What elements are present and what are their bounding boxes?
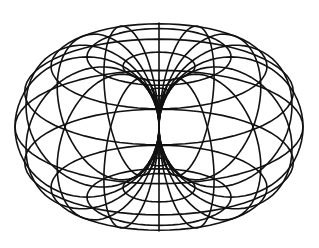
meridian-line: [57, 34, 159, 180]
meridian-line: [159, 74, 261, 220]
meridian-line: [104, 26, 159, 176]
meridian-line: [104, 78, 159, 228]
torus-wireframe: [0, 0, 319, 248]
meridian-line: [159, 26, 214, 176]
meridian-line: [159, 78, 214, 228]
meridian-line: [57, 74, 159, 220]
horn-torus-figure: [0, 0, 319, 248]
meridian-line: [159, 34, 261, 180]
